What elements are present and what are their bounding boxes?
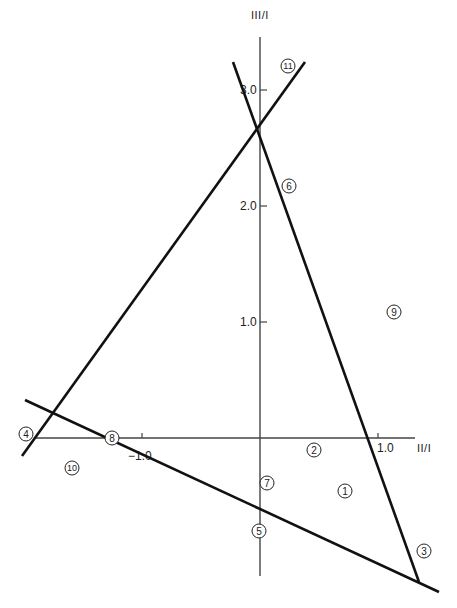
shallow-falling-line: [25, 400, 439, 592]
y-tick-label-2: 2.0: [240, 199, 257, 213]
svg-text:11: 11: [283, 61, 292, 71]
svg-text:9: 9: [391, 307, 397, 318]
region-marker-4: 4: [19, 427, 33, 441]
svg-text:10: 10: [67, 463, 77, 473]
svg-text:5: 5: [256, 526, 262, 537]
region-marker-11: 11: [281, 59, 295, 73]
region-marker-3: 3: [417, 544, 431, 558]
region-marker-2: 2: [307, 443, 321, 457]
region-marker-8: 8: [105, 431, 119, 445]
svg-text:4: 4: [23, 429, 29, 440]
svg-text:8: 8: [109, 433, 115, 444]
region-marker-5: 5: [252, 524, 266, 538]
y-tick-label-1: 1.0: [240, 315, 257, 329]
svg-text:1: 1: [342, 486, 348, 497]
x-axis-label: II/I: [417, 442, 431, 454]
x-tick-label-pos1: 1.0: [377, 441, 394, 455]
region-marker-10: 10: [65, 461, 79, 475]
region-marker-6: 6: [282, 179, 296, 193]
region-marker-1: 1: [338, 484, 352, 498]
svg-text:6: 6: [286, 181, 292, 192]
svg-text:7: 7: [264, 478, 270, 489]
svg-text:2: 2: [311, 445, 317, 456]
region-diagram: −1.0 1.0 1.0 2.0 3.0 II/I III/I 1 2 3 4 …: [0, 0, 457, 608]
region-marker-9: 9: [387, 305, 401, 319]
region-marker-7: 7: [260, 476, 274, 490]
y-axis-label: III/I: [251, 9, 269, 21]
rising-line: [22, 62, 305, 456]
svg-text:3: 3: [421, 546, 427, 557]
